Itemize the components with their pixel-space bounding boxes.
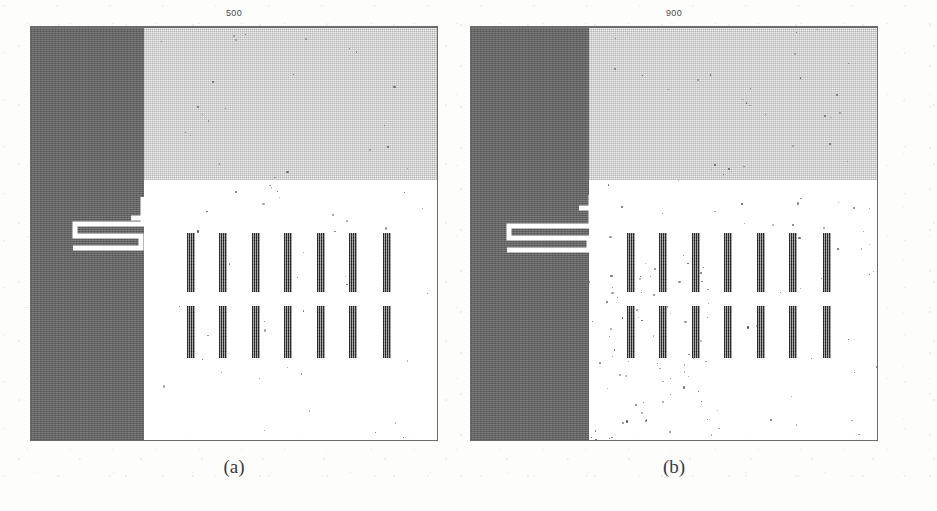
noise-point [747, 326, 749, 328]
panel-a: 500 (a) [30, 8, 438, 448]
panel-b-unknown-band [589, 28, 877, 180]
panel-a-title: 500 [30, 8, 438, 18]
noise-point [838, 202, 839, 203]
noise-point [297, 277, 298, 278]
noise-point [653, 335, 654, 336]
bar-segment [724, 306, 732, 358]
noise-point [262, 203, 264, 205]
noise-point [703, 267, 704, 268]
noise-point [800, 288, 801, 289]
noise-point [700, 272, 702, 274]
noise-point [687, 263, 688, 264]
bar-segment [219, 306, 227, 358]
bar-segment [659, 306, 667, 358]
noise-point [823, 227, 825, 229]
noise-point [346, 220, 348, 222]
noise-point [688, 376, 689, 377]
panel-a-plot-frame [30, 26, 438, 441]
noise-point [848, 339, 849, 340]
noise-point [626, 420, 628, 422]
panel-b-caption: (b) [470, 456, 878, 478]
noise-point [608, 184, 609, 185]
noise-point [711, 434, 712, 435]
noise-point [635, 404, 637, 406]
noise-point [609, 336, 610, 337]
noise-point [334, 231, 335, 232]
noise-point [717, 410, 718, 411]
noise-point [854, 372, 855, 373]
bar-segment [659, 233, 667, 292]
noise-point [622, 317, 623, 318]
noise-point [646, 419, 647, 420]
noise-point [741, 203, 743, 205]
bar-segment [252, 233, 260, 292]
noise-point [666, 277, 667, 278]
noise-point [661, 312, 662, 313]
noise-point [207, 335, 208, 336]
noise-point [264, 329, 266, 331]
bar-segment [284, 233, 292, 292]
noise-point [756, 325, 758, 327]
noise-point [345, 276, 346, 277]
noise-point [821, 278, 822, 279]
noise-point [684, 364, 685, 365]
noise-point [375, 432, 376, 433]
bar-segment [724, 233, 732, 292]
noise-point [592, 321, 593, 322]
noise-point [653, 294, 655, 296]
bar-segment [187, 306, 195, 358]
noise-point [595, 439, 596, 440]
noise-point [714, 211, 715, 212]
noise-point [861, 248, 862, 249]
bar-segment [823, 233, 831, 292]
noise-point [662, 213, 663, 214]
noise-point [662, 381, 663, 382]
noise-point [699, 246, 700, 247]
noise-point [641, 320, 642, 321]
bar-segment [187, 233, 195, 292]
panel-b-plot-frame [470, 26, 878, 441]
noise-point [824, 311, 826, 313]
panel-a-caption: (a) [30, 456, 438, 478]
noise-point [688, 354, 689, 355]
noise-point [670, 378, 671, 379]
noise-point [678, 180, 679, 181]
noise-point [639, 278, 641, 280]
noise-point [404, 192, 405, 193]
noise-point [628, 361, 629, 362]
bar-segment [284, 306, 292, 358]
noise-point [259, 378, 260, 379]
noise-point [190, 330, 191, 331]
noise-point [206, 211, 207, 212]
noise-point [869, 208, 870, 209]
noise-point [271, 187, 272, 188]
noise-point [625, 375, 627, 377]
panel-b: 900 (b) [470, 8, 878, 448]
noise-point [705, 361, 706, 362]
bar-segment [317, 306, 325, 358]
noise-point [622, 422, 624, 424]
noise-point [718, 428, 719, 429]
noise-point [654, 268, 656, 270]
noise-point [641, 412, 643, 414]
noise-point [851, 420, 852, 421]
noise-point [707, 419, 708, 420]
noise-point [811, 358, 812, 359]
noise-point [684, 371, 685, 372]
noise-point [837, 248, 839, 250]
noise-point [659, 316, 661, 318]
noise-point [332, 214, 334, 216]
noise-point [264, 321, 265, 322]
noise-point [744, 223, 745, 224]
noise-point [876, 366, 878, 368]
panel-b-occupancy-column [471, 28, 589, 440]
noise-point [662, 401, 664, 403]
noise-point [670, 313, 671, 314]
noise-point [610, 275, 612, 277]
noise-point [792, 224, 794, 226]
noise-point [303, 252, 304, 253]
noise-point [621, 206, 623, 208]
noise-point [636, 309, 638, 311]
bar-segment [349, 306, 357, 358]
noise-point [708, 303, 709, 304]
